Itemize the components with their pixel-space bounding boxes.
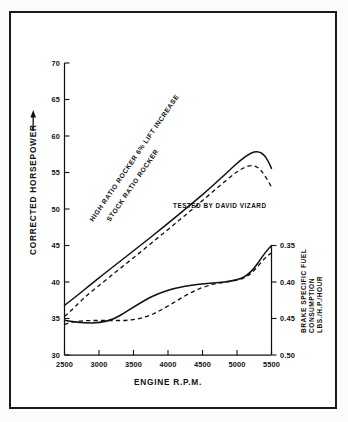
y-left-tick-30: 30 [51, 351, 60, 360]
dyno-chart-figure: 70 65 60 55 50 45 40 35 30 2500 3000 350… [0, 0, 348, 422]
x-tick-3000: 3000 [90, 360, 107, 369]
y-axis-right-title-line2: CONSUMPTION [308, 278, 315, 333]
bsfc-curve-stock-ratio [65, 253, 272, 325]
y-left-tick-65: 65 [51, 95, 60, 104]
y-left-tick-70: 70 [51, 59, 60, 68]
y-left-tick-60: 60 [51, 132, 60, 141]
y-right-tick-040: 0.40 [280, 278, 295, 287]
y-left-tick-50: 50 [51, 205, 60, 214]
x-tick-5000: 5000 [228, 360, 245, 369]
y-axis-left-title-group: CORRECTED HORSEPOWER [28, 110, 38, 255]
x-tick-2500: 2500 [56, 360, 73, 369]
y-axis-right-title-line3: LBS./H.P./HOUR [316, 276, 323, 333]
annotation-high-ratio-rocker: HIGH RATIO ROCKER 6% LIFT INCREASE [88, 93, 180, 223]
hp-curve-stock-ratio [65, 166, 272, 317]
x-axis: 2500 3000 3500 4000 4500 5000 5500 ENGIN… [56, 350, 280, 387]
credit-text: TESTED BY DAVID VIZARD [173, 202, 267, 209]
y-right-tick-050: 0.50 [280, 351, 295, 360]
x-tick-5500: 5500 [263, 360, 280, 369]
y-right-tick-035: 0.35 [280, 241, 295, 250]
x-tick-4000: 4000 [159, 360, 176, 369]
y-right-tick-045: 0.45 [280, 314, 295, 323]
x-axis-title: ENGINE R.P.M. [134, 377, 202, 387]
y-axis-left-title: CORRECTED HORSEPOWER [28, 124, 38, 255]
y-left-tick-35: 35 [51, 314, 60, 323]
y-left-tick-45: 45 [51, 241, 60, 250]
chart-plot-area: 70 65 60 55 50 45 40 35 30 2500 3000 350… [0, 0, 348, 422]
bsfc-curve-high-ratio [65, 246, 272, 323]
x-tick-4500: 4500 [194, 360, 211, 369]
y-axis-right-title-line1: BRAKE SPECIFIC FUEL [300, 249, 307, 333]
x-tick-3500: 3500 [125, 360, 142, 369]
hp-curve-high-ratio [65, 152, 272, 306]
y-left-tick-55: 55 [51, 168, 60, 177]
y-axis-right-title-group: BRAKE SPECIFIC FUEL CONSUMPTION LBS./H.P… [300, 249, 323, 333]
y-left-tick-40: 40 [51, 278, 60, 287]
y-axis-right: 0.35 0.40 0.45 0.50 [272, 241, 296, 359]
